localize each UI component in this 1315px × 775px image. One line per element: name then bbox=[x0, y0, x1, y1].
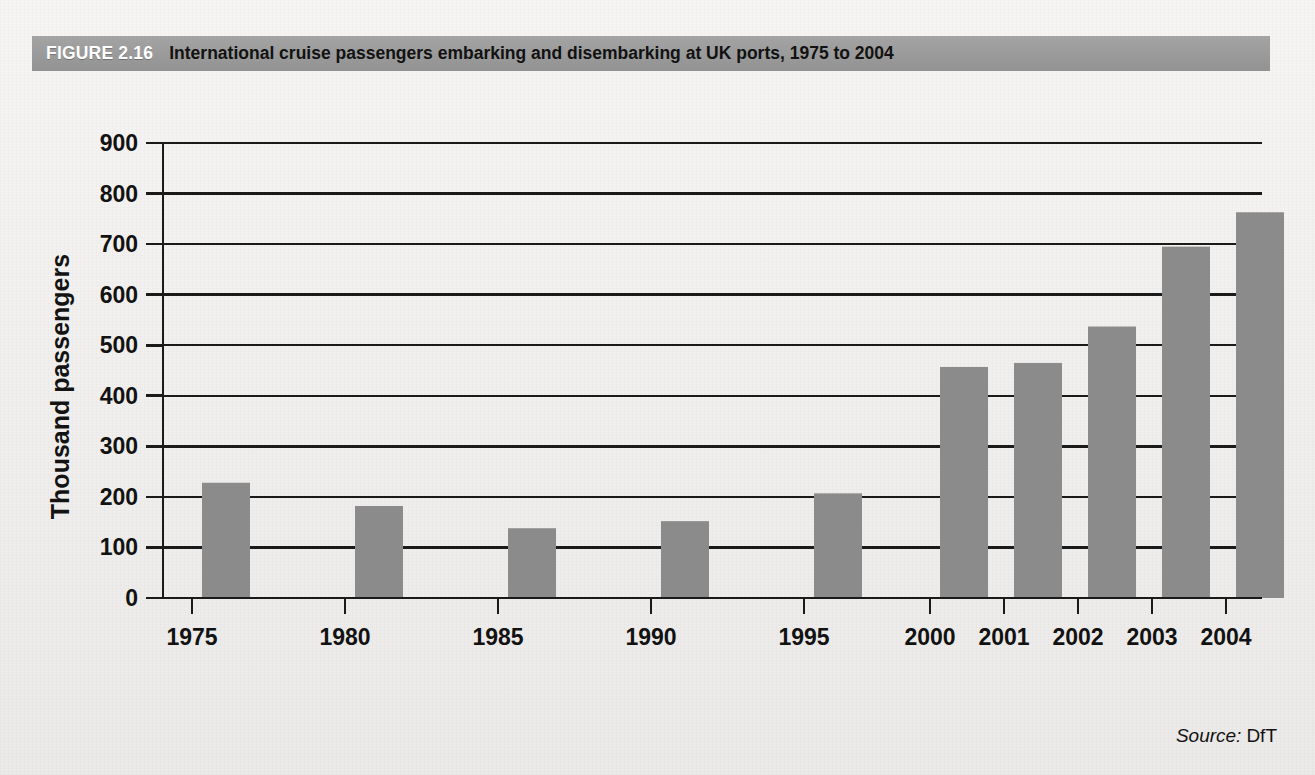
bar-group bbox=[202, 212, 1284, 598]
x-tick-label: 1990 bbox=[625, 624, 676, 650]
y-tick-label: 800 bbox=[100, 181, 138, 207]
x-tick-label: 2003 bbox=[1126, 624, 1177, 650]
bar bbox=[1236, 212, 1284, 598]
bar-chart-svg: 0100200300400500600700800900 19751980198… bbox=[0, 0, 1315, 775]
y-tick-label: 600 bbox=[100, 282, 138, 308]
bar bbox=[940, 367, 988, 598]
x-tick-label: 2000 bbox=[904, 624, 955, 650]
x-tick-label: 1995 bbox=[778, 624, 829, 650]
bar bbox=[355, 506, 403, 598]
bar bbox=[661, 521, 709, 598]
figure-container: FIGURE 2.16 International cruise passeng… bbox=[0, 0, 1315, 775]
bar bbox=[814, 493, 862, 598]
bar bbox=[1088, 327, 1136, 598]
y-tick-group bbox=[146, 143, 163, 598]
x-tick-label: 2004 bbox=[1200, 624, 1251, 650]
y-tick-label-group: 0100200300400500600700800900 bbox=[100, 130, 138, 611]
bar bbox=[1014, 363, 1062, 598]
x-tick-label: 2002 bbox=[1052, 624, 1103, 650]
x-tick-label-group: 1975198019851990199520002001200220032004 bbox=[166, 624, 1251, 650]
y-axis-title: Thousand passengers bbox=[46, 222, 75, 552]
chart-plot-area: 0100200300400500600700800900 19751980198… bbox=[0, 0, 1315, 775]
x-tick-group bbox=[192, 598, 1226, 614]
y-tick-label: 300 bbox=[100, 433, 138, 459]
y-tick-label: 100 bbox=[100, 534, 138, 560]
source-note: Source:DfT bbox=[1176, 725, 1277, 747]
bar bbox=[1162, 247, 1210, 598]
x-tick-label: 2001 bbox=[978, 624, 1029, 650]
source-label: Source: bbox=[1176, 725, 1241, 746]
y-tick-label: 500 bbox=[100, 332, 138, 358]
y-tick-label: 900 bbox=[100, 130, 138, 156]
source-value: DfT bbox=[1246, 725, 1277, 746]
bar bbox=[202, 483, 250, 598]
y-tick-label: 400 bbox=[100, 383, 138, 409]
x-tick-label: 1985 bbox=[472, 624, 523, 650]
y-tick-label: 0 bbox=[125, 585, 138, 611]
x-tick-label: 1980 bbox=[319, 624, 370, 650]
y-tick-label: 200 bbox=[100, 484, 138, 510]
x-tick-label: 1975 bbox=[166, 624, 217, 650]
bar bbox=[508, 528, 556, 598]
y-tick-label: 700 bbox=[100, 231, 138, 257]
